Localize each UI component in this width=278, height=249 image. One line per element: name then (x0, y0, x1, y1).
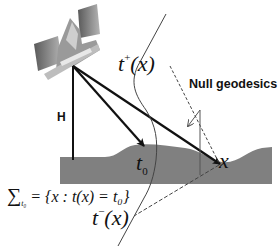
t0-sub: 0 (142, 165, 148, 177)
reference-arrow (188, 110, 200, 126)
sigma-sub: t₀ (21, 199, 26, 208)
terrain-surface (60, 144, 272, 184)
sigma-symbol: ∑ (7, 184, 21, 206)
null-geodesics-label: Null geodesics (189, 77, 277, 91)
sigma-definition: ∑t₀ = {x : t(x) = t₀} (7, 186, 129, 213)
t-plus-arg: (x) (130, 51, 154, 76)
satellite-icon (34, 4, 100, 80)
t-plus-label: t+(x) (118, 46, 155, 75)
t0-label: t0 (136, 152, 148, 182)
height-label: H (57, 110, 66, 124)
sigma-def: = {x : t(x) = t₀} (30, 188, 129, 205)
x-point-label: x (219, 150, 229, 172)
